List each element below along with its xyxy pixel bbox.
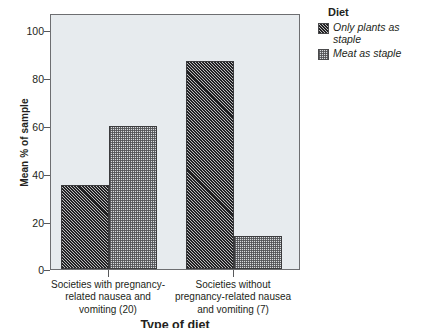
legend: Diet Only plants as staple Meat as stapl… xyxy=(318,6,420,63)
plot-area xyxy=(50,14,300,270)
legend-label-only-plants: Only plants as staple xyxy=(333,22,400,45)
x-axis-label-group2-line2: pregnancy-related nausea xyxy=(159,291,307,303)
legend-swatch-meat-icon xyxy=(318,49,329,60)
legend-label-only-plants-line1: Only plants as xyxy=(333,21,400,33)
y-tick-label-80: 80 xyxy=(16,74,44,84)
y-axis-tick-labels: 100 80 60 40 20 0 xyxy=(16,14,44,270)
bar-chart-figure: Mean % of sample 100 80 60 40 20 0 Socie… xyxy=(0,0,422,328)
y-tick-label-100: 100 xyxy=(16,26,44,36)
x-axis-title: Type of diet xyxy=(50,318,300,328)
x-axis-label-group2-line1: Societies without xyxy=(159,279,307,291)
bar-group1-only-plants xyxy=(61,185,109,269)
bar-group1-meat xyxy=(109,126,157,269)
legend-label-meat: Meat as staple xyxy=(333,48,401,60)
legend-title: Diet xyxy=(328,6,420,18)
y-tick-label-40: 40 xyxy=(16,170,44,180)
legend-item-only-plants: Only plants as staple xyxy=(318,22,420,45)
x-axis-label-group2: Societies without pregnancy-related naus… xyxy=(159,279,307,316)
legend-item-meat: Meat as staple xyxy=(318,48,420,60)
bar-group2-only-plants xyxy=(186,61,234,269)
y-tick-label-60: 60 xyxy=(16,122,44,132)
y-tick-label-0: 0 xyxy=(16,265,44,275)
legend-label-only-plants-line2: staple xyxy=(333,33,361,45)
plot-inner xyxy=(51,15,299,269)
y-tick-label-20: 20 xyxy=(16,218,44,228)
x-axis-label-group2-line3: and vomiting (7) xyxy=(159,304,307,316)
bar-group2-meat xyxy=(234,236,282,269)
x-tick-mark-group2 xyxy=(233,270,234,277)
legend-swatch-only-plants-icon xyxy=(318,23,329,34)
x-tick-mark-group1 xyxy=(108,270,109,277)
